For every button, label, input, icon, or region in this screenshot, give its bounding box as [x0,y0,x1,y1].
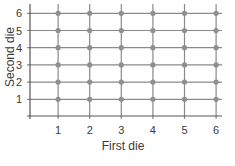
data-point [182,97,187,102]
x-tick-labels: 123456 [55,124,219,136]
data-point [119,80,124,85]
data-point [182,62,187,67]
data-point [150,97,155,102]
data-point [56,80,61,85]
data-point [119,28,124,33]
data-point [150,11,155,16]
y-tick-label: 6 [16,7,22,19]
data-point [119,62,124,67]
y-tick-label: 1 [16,93,22,105]
data-point [182,28,187,33]
data-point [119,11,124,16]
data-point [56,97,61,102]
data-point [214,11,219,16]
x-tick-label: 1 [55,124,61,136]
data-points [56,11,219,102]
x-tick-label: 2 [87,124,93,136]
data-point [56,62,61,67]
data-point [214,28,219,33]
data-point [182,80,187,85]
data-point [214,97,219,102]
dice-outcome-grid-chart: 123456 123456 First die Second die [0,0,235,166]
data-point [119,45,124,50]
y-axis-title: Second die [3,27,17,87]
data-point [182,45,187,50]
grid-lines [27,4,222,119]
data-point [214,80,219,85]
x-tick-label: 4 [150,124,156,136]
data-point [150,80,155,85]
x-tick-label: 5 [181,124,187,136]
data-point [87,45,92,50]
data-point [56,11,61,16]
data-point [87,80,92,85]
data-point [87,97,92,102]
data-point [87,62,92,67]
data-point [150,62,155,67]
data-point [182,11,187,16]
data-point [56,28,61,33]
data-point [87,11,92,16]
data-point [214,62,219,67]
data-point [56,45,61,50]
x-tick-label: 3 [118,124,124,136]
data-point [150,28,155,33]
data-point [87,28,92,33]
x-axis-title: First die [102,139,145,153]
data-point [214,45,219,50]
x-tick-label: 6 [213,124,219,136]
axes [27,4,222,119]
data-point [119,97,124,102]
data-point [150,45,155,50]
